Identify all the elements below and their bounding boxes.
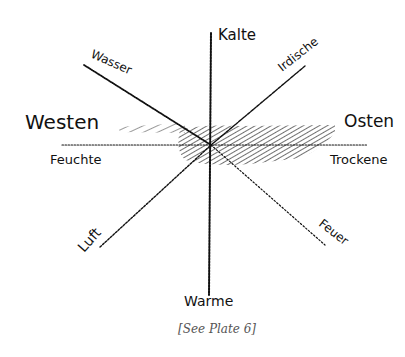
- axis-wasser-center: [84, 65, 211, 145]
- label-trockene: Trockene: [329, 152, 388, 167]
- plate-caption: [See Plate 6]: [178, 322, 256, 336]
- label-osten: Osten: [344, 111, 394, 131]
- label-westen: Westen: [25, 110, 99, 134]
- label-luft: Luft: [74, 224, 104, 255]
- label-feuchte: Feuchte: [50, 152, 102, 167]
- label-kalte: Kalte: [218, 26, 256, 44]
- label-irdische: Irdische: [275, 34, 321, 74]
- label-warme: Warme: [184, 293, 233, 309]
- label-feuer: Feuer: [316, 216, 351, 248]
- elements-cross-diagram: Kalte Warme Westen Osten Feuchte Trocken…: [0, 0, 405, 357]
- hatched-band-west-tail: [118, 123, 185, 133]
- axis-luft-center: [100, 145, 211, 247]
- axis-kalte-warme: [209, 33, 211, 295]
